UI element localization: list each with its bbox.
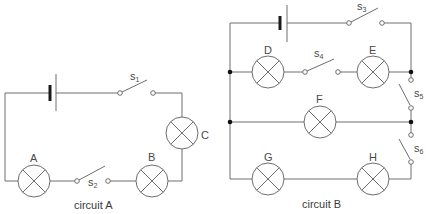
switch-contact <box>118 91 123 96</box>
switch-label-s3: s3 <box>357 0 367 13</box>
lamp-label-b: B <box>148 151 155 163</box>
switch-s5: s5 <box>399 78 424 111</box>
circuit-b: s3 D s4 E s5 <box>228 0 424 210</box>
lamp-c: C <box>166 117 209 149</box>
lamp-label-d: D <box>264 44 272 56</box>
switch-s6: s6 <box>399 133 424 165</box>
wire-b-h-right <box>389 164 411 179</box>
lamp-label-a: A <box>30 152 38 164</box>
caption-circuit-a: circuit A <box>74 199 113 211</box>
junction-dot <box>228 70 233 75</box>
junction-dot <box>228 120 233 125</box>
lamp-label-c: C <box>201 129 209 141</box>
switch-lever <box>399 84 410 105</box>
junction-dot <box>409 120 414 125</box>
switch-s4: s4 <box>303 47 341 74</box>
lamp-label-g: G <box>264 151 273 163</box>
circuit-a: s1 C A s2 B circui <box>5 70 209 211</box>
lamp-h: H <box>357 151 389 195</box>
switch-s3: s3 <box>347 0 385 25</box>
circuit-diagrams: s1 C A s2 B circui <box>0 0 426 214</box>
switch-contact <box>380 21 385 26</box>
lamp-e: E <box>357 44 389 88</box>
lamp-d: D <box>252 44 284 88</box>
switch-contact <box>75 179 80 184</box>
wire-a-top-right <box>155 93 182 117</box>
switch-label-s4: s4 <box>314 47 324 60</box>
switch-contact <box>303 70 308 75</box>
switch-contact <box>336 70 341 75</box>
switch-label-s5: s5 <box>414 87 424 100</box>
lamp-f: F <box>304 93 336 138</box>
switch-contact <box>409 106 414 111</box>
switch-lever <box>399 139 410 159</box>
switch-label-s1: s1 <box>130 70 140 83</box>
lamp-label-h: H <box>369 151 377 163</box>
switch-s1: s1 <box>118 70 156 95</box>
battery-a <box>50 74 56 111</box>
switch-label-s6: s6 <box>414 142 424 155</box>
wire-a-right-lower <box>168 149 182 181</box>
lamp-label-f: F <box>316 93 323 105</box>
switch-contact <box>409 160 414 165</box>
switch-contact <box>409 133 414 138</box>
battery-b <box>280 5 287 42</box>
switch-contact <box>347 21 352 26</box>
junction-dot <box>409 70 414 75</box>
switch-contact <box>409 78 414 83</box>
switch-lever <box>307 59 334 71</box>
switch-s2: s2 <box>75 166 111 189</box>
switch-contact <box>151 91 156 96</box>
switch-label-s2: s2 <box>88 176 98 189</box>
switch-contact <box>106 179 111 184</box>
caption-circuit-b: circuit B <box>302 198 341 210</box>
lamp-b: B <box>136 151 168 197</box>
lamp-label-e: E <box>369 44 376 56</box>
lamp-g: G <box>252 151 284 195</box>
lamp-a: A <box>18 152 50 197</box>
